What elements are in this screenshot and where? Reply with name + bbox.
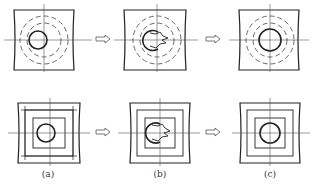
- arrow-right-icon: [206, 35, 220, 43]
- arrow-right-icon: [96, 35, 110, 43]
- panel-b-top: [114, 4, 198, 72]
- panel-label-c: (c): [250, 169, 290, 179]
- panel-c-top: [229, 4, 309, 72]
- panel-b-bottom: [118, 98, 200, 166]
- arrow-right-icon: [96, 128, 110, 136]
- panel-a-top: [4, 4, 92, 72]
- arrow-right-icon: [206, 128, 220, 136]
- panel-a-bottom: [8, 98, 90, 166]
- panel-label-a: (a): [28, 169, 68, 179]
- panel-label-b: (b): [140, 169, 180, 179]
- diagram-canvas: [0, 0, 314, 187]
- panel-c-bottom: [232, 98, 310, 166]
